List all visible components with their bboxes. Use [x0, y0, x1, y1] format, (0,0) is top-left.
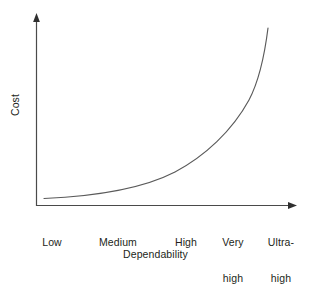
- y-axis-title: Cost: [9, 56, 21, 116]
- x-tick-label-low-line1: Low: [22, 236, 82, 248]
- y-axis-arrow-icon: [33, 13, 40, 22]
- x-axis-title: Dependability: [0, 248, 311, 260]
- x-tick-label-very-high-line1: Very: [206, 236, 260, 248]
- x-tick-label-ultra-high-line2: high: [254, 272, 308, 284]
- x-axis-arrow-icon: [288, 202, 297, 209]
- x-tick-label-ultra-high-line1: Ultra-: [254, 236, 308, 248]
- x-tick-label-low: Low: [22, 212, 82, 272]
- x-tick-label-medium: Medium: [88, 212, 148, 272]
- x-tick-label-medium-line1: Medium: [88, 236, 148, 248]
- cost-curve: [44, 28, 268, 199]
- x-tick-label-very-high-line2: high: [206, 272, 260, 284]
